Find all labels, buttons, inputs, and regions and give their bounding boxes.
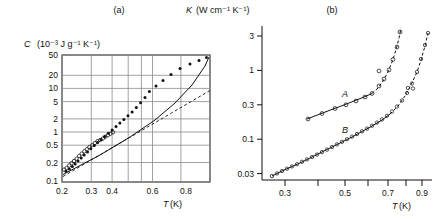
panel-a-ytick-2: 2 xyxy=(53,114,58,124)
panel-b-curve-B-markers xyxy=(270,31,429,177)
panel-a-xtick-0.4: 0.4 xyxy=(106,186,118,196)
panel-b-curve-A-label: A xyxy=(341,89,348,99)
panel-a-x-symbol: T xyxy=(163,199,170,209)
panel-b-ytick-3: 3 xyxy=(249,31,254,41)
panel-a-ytick-10: 10 xyxy=(49,83,59,93)
figure-container: (a) C (10⁻³ J g⁻¹ K⁻¹) xyxy=(0,0,440,219)
panel-a-y-tick-labels: 50 20 10 5 2 1 0.5 0.2 0.1 xyxy=(46,50,58,186)
panel-a-xtick-0.3: 0.3 xyxy=(85,186,97,196)
panel-a-x-axis-title: T (K) xyxy=(163,199,182,209)
panel-b-ytick-0.1: 0.1 xyxy=(242,134,254,144)
panel-a-y-symbol: C xyxy=(24,39,31,49)
panel-b-x-symbol: T xyxy=(392,201,399,211)
panel-b-ytick-0.03: 0.03 xyxy=(237,169,254,179)
panel-b-y-ticks xyxy=(257,36,262,174)
panel-b-y-unit: (W cm⁻¹ K⁻¹) xyxy=(196,5,249,15)
panel-b-x-unit: (K) xyxy=(399,201,411,211)
panel-a-x-unit: (K) xyxy=(170,199,182,209)
panel-b-y-symbol: K xyxy=(186,5,193,15)
panel-b-y-tick-labels: 3 1 0.3 0.1 0.03 xyxy=(237,31,254,179)
panel-b-xtick-0.7: 0.7 xyxy=(382,188,394,198)
panel-b-curve-A-dashed xyxy=(372,28,401,94)
panel-b-x-tick-labels: 0.3 0.5 0.7 0.9 xyxy=(279,188,428,198)
panel-b-curve-B-label: B xyxy=(342,125,348,135)
panel-a-xtick-0.6: 0.6 xyxy=(147,186,159,196)
panel-b-xtick-0.3: 0.3 xyxy=(279,188,291,198)
panel-b-x-ticks xyxy=(285,180,422,186)
panel-a-x-tick-labels: 0.2 0.3 0.4 0.6 0.8 xyxy=(56,186,192,196)
panel-a-y-unit: (10⁻³ J g⁻¹ K⁻¹) xyxy=(37,39,100,49)
panel-a-ytick-0.2: 0.2 xyxy=(46,158,58,168)
figure-svg: (a) C (10⁻³ J g⁻¹ K⁻¹) xyxy=(0,0,440,219)
panel-b-xtick-0.9: 0.9 xyxy=(416,188,428,198)
panel-a-y-axis-title: C (10⁻³ J g⁻¹ K⁻¹) xyxy=(24,39,100,49)
panel-b-curve-B-solid xyxy=(272,114,390,176)
panel-a-xtick-0.8: 0.8 xyxy=(180,186,192,196)
panel-a-ytick-20: 20 xyxy=(49,70,59,80)
panel-b: (b) K (W cm⁻¹ K⁻¹) 3 1 0.3 0.1 0.03 xyxy=(186,5,432,211)
panel-a-ytick-0.1: 0.1 xyxy=(46,176,58,186)
panel-a: (a) C (10⁻³ J g⁻¹ K⁻¹) xyxy=(24,5,210,209)
panel-a-ytick-5: 5 xyxy=(53,97,58,107)
panel-a-ytick-0.5: 0.5 xyxy=(46,140,58,150)
panel-b-ytick-1: 1 xyxy=(249,65,254,75)
panel-b-ytick-0.3: 0.3 xyxy=(242,100,254,110)
panel-a-ytick-50: 50 xyxy=(49,50,59,60)
panel-a-ytick-1: 1 xyxy=(53,127,58,137)
panel-a-xtick-0.2: 0.2 xyxy=(56,186,68,196)
panel-b-y-axis-title: K (W cm⁻¹ K⁻¹) xyxy=(186,5,249,15)
panel-b-label: (b) xyxy=(327,5,338,15)
panel-b-curve-A-solid xyxy=(307,94,372,120)
panel-a-label: (a) xyxy=(114,5,125,15)
panel-b-curve-A-markers xyxy=(306,30,402,121)
panel-b-x-axis-title: T (K) xyxy=(392,201,411,211)
panel-b-xtick-0.5: 0.5 xyxy=(339,188,351,198)
